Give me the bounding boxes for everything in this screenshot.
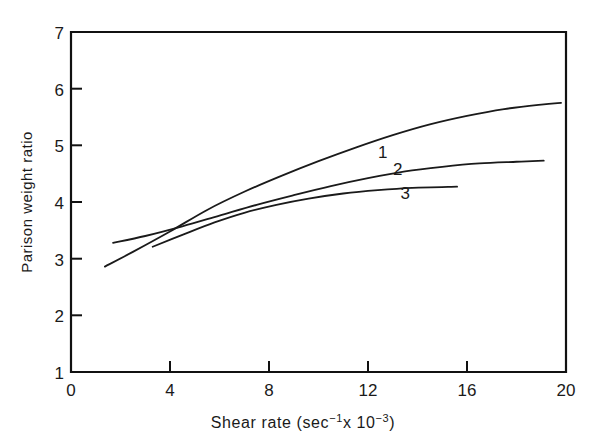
x-axis-title-mid: x 10 — [343, 414, 376, 431]
data-curves — [105, 103, 561, 267]
curve-label-2: 2 — [393, 160, 402, 179]
y-tick-label-1: 1 — [55, 364, 64, 383]
y-axis-ticks — [71, 32, 82, 372]
axis-frame — [71, 32, 566, 372]
x-tick-label-20: 20 — [557, 381, 576, 400]
x-axis-title-close: ) — [389, 414, 395, 431]
curve-label-3: 3 — [400, 184, 409, 203]
x-tick-label-8: 8 — [264, 381, 273, 400]
svg-text:Shear rate (sec−1x 10−3): Shear rate (sec−1x 10−3) — [211, 412, 395, 431]
x-axis-title: Shear rate (sec−1x 10−3) — [211, 412, 395, 431]
y-tick-label-3: 3 — [55, 251, 64, 270]
chart-figure: 7 6 5 4 3 2 1 0 4 8 12 16 20 Parison wei… — [0, 0, 606, 438]
y-tick-label-2: 2 — [55, 307, 64, 326]
chart-plot-area: 7 6 5 4 3 2 1 0 4 8 12 16 20 Parison wei… — [0, 0, 606, 438]
y-tick-label-5: 5 — [55, 137, 64, 156]
curve-label-1: 1 — [378, 143, 387, 162]
x-tick-label-4: 4 — [165, 381, 174, 400]
x-tick-label-16: 16 — [458, 381, 477, 400]
x-tick-label-12: 12 — [359, 381, 378, 400]
x-axis-ticks — [71, 361, 566, 372]
x-axis-title-base: Shear rate (sec — [211, 414, 329, 431]
y-axis-tick-labels: 7 6 5 4 3 2 1 — [55, 24, 64, 383]
x-tick-label-0: 0 — [66, 381, 75, 400]
data-curve-1 — [105, 103, 561, 267]
y-tick-label-6: 6 — [55, 81, 64, 100]
y-axis-title: Parison weight ratio — [18, 131, 35, 273]
y-tick-label-4: 4 — [55, 194, 64, 213]
x-axis-title-sup2: −3 — [376, 412, 390, 424]
y-tick-label-7: 7 — [55, 24, 64, 43]
curve-labels: 123 — [378, 143, 410, 203]
x-axis-tick-labels: 0 4 8 12 16 20 — [66, 381, 575, 400]
data-curve-2 — [113, 161, 544, 243]
data-curve-3 — [153, 187, 457, 247]
x-axis-title-sup1: −1 — [329, 412, 343, 424]
